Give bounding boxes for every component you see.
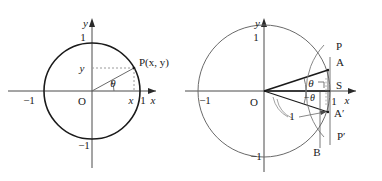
left-coord-y-label: y [79,62,85,74]
left-y-axis-label: y [82,17,88,29]
right-point-A-prime-label: A′ [334,107,344,119]
right-diagram: y 1 −1 −1 1 x O θ −θ 1 P A S A′ P′ B [185,17,356,172]
left-point-P-marker [133,67,136,70]
right-point-A-prime-marker [327,111,329,113]
right-y-tick-neg1-label: −1 [250,150,262,162]
right-segment-OA-prime [264,91,328,112]
left-y-tick-neg1-label: −1 [78,139,90,151]
right-point-A-label: A [336,56,344,68]
left-x-tick-neg1-label: −1 [23,94,35,106]
right-theta-label-lower: −θ [303,92,315,103]
left-origin-label: O [78,95,86,107]
right-point-B-label: B [313,146,320,158]
left-coord-x-label: x [128,94,134,106]
left-theta-label: θ [110,77,116,89]
left-y-axis-arrowhead [89,18,95,27]
right-point-A-marker [327,69,329,71]
figure-canvas: y 1 −1 −1 1 x O y x θ P(x, y) [0,0,382,181]
right-x-tick-neg1-label: −1 [199,94,211,106]
right-y-axis-label: y [254,17,260,29]
right-theta-label-upper: θ [308,77,314,89]
right-radius-label: 1 [289,110,295,122]
right-x-tick-1-label: 1 [331,95,337,107]
left-x-axis-label: x [150,94,156,106]
right-point-P-label: P [336,40,342,52]
diagram-svg: y 1 −1 −1 1 x O y x θ P(x, y) [0,0,382,181]
right-y-axis-arrowhead [261,18,267,27]
right-x-axis-label: x [344,94,350,106]
right-angle-marker [318,82,324,88]
right-y-tick-1-label: 1 [253,31,259,43]
right-point-P-prime-label: P′ [337,130,346,142]
left-point-P-label: P(x, y) [139,56,169,69]
left-x-tick-1-label: 1 [140,94,146,106]
left-y-tick-1-label: 1 [80,31,86,43]
right-segment-OA [264,70,328,91]
right-theta-arc-upper [304,78,306,91]
left-diagram: y 1 −1 −1 1 x O y x θ P(x, y) [8,17,169,168]
right-point-S-label: S [336,79,342,91]
right-origin-label: O [250,96,258,108]
